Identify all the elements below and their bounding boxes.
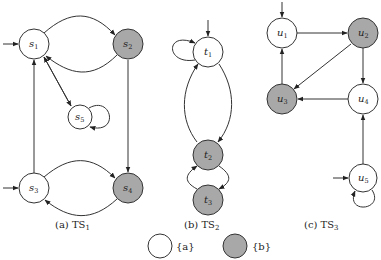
state-s5: s5	[68, 105, 92, 129]
edge-t1-t2	[218, 64, 232, 142]
edge-t1-t1	[173, 40, 196, 60]
caption-ts1: (a) TS1	[55, 219, 90, 232]
state-u5: u5	[349, 164, 377, 192]
legend-label-b: {b}	[252, 241, 271, 252]
state-t3: t3	[193, 185, 223, 215]
state-u4: u4	[348, 84, 378, 114]
state-s1: s1	[19, 29, 49, 59]
state-t2: t2	[193, 140, 223, 170]
edge-t2-t3	[219, 166, 229, 189]
caption-ts3: (c) TS3	[304, 219, 339, 232]
legend-label-a: {a}	[176, 241, 195, 252]
edge-u2-u3	[294, 44, 351, 89]
state-t1: t1	[193, 37, 223, 67]
state-s2: s2	[113, 29, 143, 59]
state-u3: u3	[267, 84, 297, 114]
edge-s1-s2	[44, 16, 115, 35]
edge-s4-s3	[45, 199, 117, 216]
caption-ts2: (b) TS2	[184, 219, 219, 232]
state-u2: u2	[348, 18, 378, 48]
edge-t2-t1	[184, 64, 198, 142]
legend-swatch-b	[223, 234, 247, 258]
state-u1: u1	[267, 18, 297, 48]
legend: {a} {b}	[148, 234, 271, 258]
edge-t3-t2	[187, 166, 197, 189]
edge-s2-s1	[46, 55, 117, 72]
state-s4: s4	[113, 173, 143, 203]
edge-u5-u5	[353, 190, 374, 207]
transition-systems-diagram: s1 s2 s5 s3 s4 (a) TS1 t1 t2 t3 (b) TS2	[0, 0, 381, 260]
edge-s3-s4	[44, 161, 115, 178]
legend-swatch-a	[148, 234, 172, 258]
state-s3: s3	[19, 173, 49, 203]
